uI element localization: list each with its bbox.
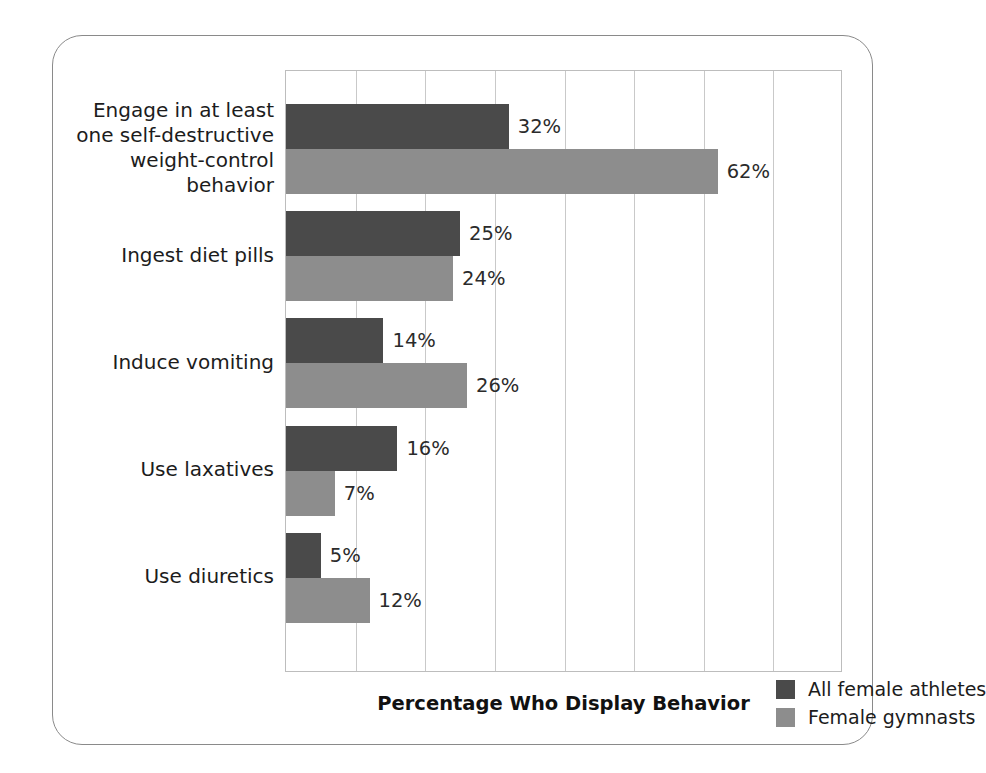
bar-value-label: 26% (467, 363, 519, 408)
x-axis-title: Percentage Who Display Behavior (285, 692, 842, 715)
bar-1[interactable] (286, 578, 370, 623)
category-label: Ingest diet pills (60, 243, 274, 268)
bar-row: 14% (286, 318, 841, 363)
bar-group: 14%26% (286, 318, 841, 408)
bar-row: 7% (286, 471, 841, 516)
bar-0[interactable] (286, 533, 321, 578)
bar-row: 32% (286, 104, 841, 149)
bar-row: 62% (286, 149, 841, 194)
category-label-line: Use laxatives (60, 457, 274, 482)
plot-area: 32%62%25%24%14%26%16%7%5%12% All female … (285, 70, 842, 672)
bar-value-label: 7% (335, 471, 375, 516)
bar-0[interactable] (286, 211, 460, 256)
category-label-line: behavior (60, 173, 274, 198)
bar-row: 25% (286, 211, 841, 256)
bar-value-label: 62% (718, 149, 770, 194)
bar-groups: 32%62%25%24%14%26%16%7%5%12% (286, 71, 841, 671)
category-label-line: Use diuretics (60, 564, 274, 589)
bar-row: 24% (286, 256, 841, 301)
bar-row: 26% (286, 363, 841, 408)
bar-value-label: 32% (509, 104, 561, 149)
category-label-line: Engage in at least (60, 98, 274, 123)
bar-value-label: 24% (453, 256, 505, 301)
category-axis-labels: Engage in at leastone self-destructivewe… (60, 70, 274, 672)
bar-1[interactable] (286, 471, 335, 516)
bar-value-label: 5% (321, 533, 361, 578)
bar-value-label: 25% (460, 211, 512, 256)
bar-row: 5% (286, 533, 841, 578)
bar-1[interactable] (286, 363, 467, 408)
category-label-line: Induce vomiting (60, 350, 274, 375)
bar-row: 16% (286, 426, 841, 471)
category-label: Induce vomiting (60, 350, 274, 375)
bar-0[interactable] (286, 318, 383, 363)
bar-group: 25%24% (286, 211, 841, 301)
bar-value-label: 12% (370, 578, 422, 623)
category-label: Use laxatives (60, 457, 274, 482)
bar-row: 12% (286, 578, 841, 623)
bar-value-label: 14% (383, 318, 435, 363)
category-label: Engage in at leastone self-destructivewe… (60, 98, 274, 198)
bar-group: 16%7% (286, 426, 841, 516)
bar-0[interactable] (286, 426, 397, 471)
category-label-line: one self-destructive (60, 123, 274, 148)
bar-group: 32%62% (286, 104, 841, 194)
bar-group: 5%12% (286, 533, 841, 623)
category-label-line: Ingest diet pills (60, 243, 274, 268)
bar-1[interactable] (286, 149, 718, 194)
category-label-line: weight-control (60, 148, 274, 173)
bar-1[interactable] (286, 256, 453, 301)
bar-value-label: 16% (397, 426, 449, 471)
bar-0[interactable] (286, 104, 509, 149)
category-label: Use diuretics (60, 564, 274, 589)
